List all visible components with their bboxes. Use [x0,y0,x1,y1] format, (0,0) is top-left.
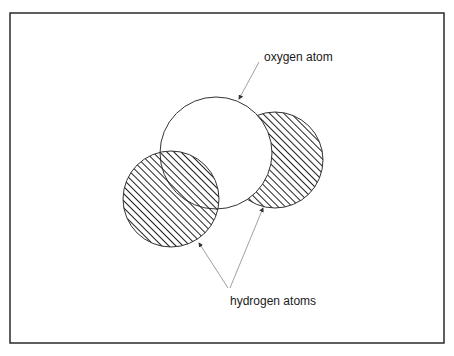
oxygen-atom-label: oxygen atom [264,50,333,64]
hydrogen-atom-left [123,151,219,247]
oxygen-pointer-arrow [239,62,259,99]
water-molecule-diagram: oxygen atom hydrogen atoms [0,0,454,356]
hydrogen-left-pointer-arrow [199,243,228,288]
hydrogen-right-pointer-arrow [230,208,263,288]
hydrogen-atoms-label: hydrogen atoms [230,294,316,308]
